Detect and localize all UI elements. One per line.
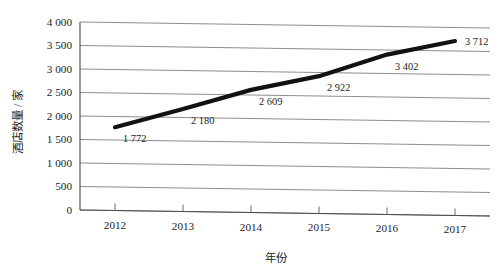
gridline <box>80 22 490 28</box>
data-point-label: 3 712 <box>465 36 488 47</box>
y-tick-label: 2 000 <box>47 110 73 122</box>
data-point-label: 2 609 <box>259 96 282 107</box>
x-tick-label: 2015 <box>308 221 331 233</box>
data-point-labels-group: 1 7722 1802 6092 9223 4023 712 <box>123 36 488 144</box>
series-line-hotel-count <box>115 41 455 127</box>
y-tick-label: 4 000 <box>47 16 73 28</box>
gridline <box>80 93 490 99</box>
gridline <box>80 187 490 193</box>
y-tick-label: 2 500 <box>47 86 73 98</box>
x-tick-label: 2012 <box>104 219 126 231</box>
y-tick-label: 0 <box>66 204 72 216</box>
y-tick-label: 3 500 <box>47 39 73 51</box>
x-tick-marks-group <box>115 204 455 216</box>
series-group <box>115 41 455 127</box>
y-tick-labels-group: 05001 0001 5002 0002 5003 0003 5004 000 <box>47 16 73 216</box>
y-tick-label: 500 <box>55 180 72 192</box>
y-axis-title: 酒店数量 / 家 <box>11 89 24 154</box>
x-tick-labels-group: 201220132014201520162017 <box>104 219 467 236</box>
x-tick-label: 2013 <box>172 220 195 232</box>
data-point-label: 3 402 <box>395 61 418 72</box>
x-axis-line <box>80 210 490 216</box>
x-tick-label: 2016 <box>376 222 399 234</box>
data-point-label: 2 180 <box>191 115 214 126</box>
gridline <box>80 69 490 75</box>
data-point-label: 1 772 <box>123 133 146 144</box>
chart-container: 05001 0001 5002 0002 5003 0003 5004 000 … <box>0 0 501 273</box>
y-tick-label: 1 500 <box>47 133 73 145</box>
x-axis-title: 年份 <box>265 251 288 264</box>
gridline <box>80 163 490 169</box>
x-tick-label: 2017 <box>444 223 467 235</box>
data-point-label: 2 922 <box>327 82 350 93</box>
x-tick-label: 2014 <box>240 221 263 233</box>
y-tick-label: 1 000 <box>47 157 73 169</box>
y-tick-label: 3 000 <box>47 63 73 75</box>
line-chart: 05001 0001 5002 0002 5003 0003 5004 000 … <box>0 0 501 273</box>
